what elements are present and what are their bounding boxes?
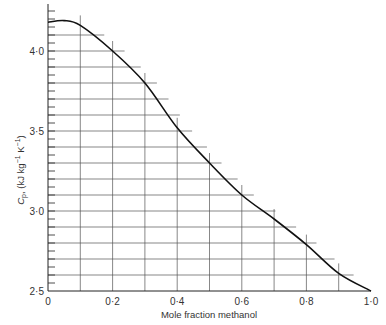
y-tick-label: 3·5 <box>30 126 45 137</box>
x-tick-label: 0·8 <box>299 296 314 307</box>
y-axis-title: Cp, (kJ kg−1 K−1) <box>14 135 28 205</box>
x-axis-title: Mole fraction methanol <box>161 309 257 320</box>
y-tick-label: 2·5 <box>30 286 45 297</box>
x-tick-label: 0·4 <box>170 296 185 307</box>
y-tick-labels: 2·53·03·54·0 <box>30 46 45 297</box>
x-tick-label: 0·2 <box>105 296 120 307</box>
x-tick-label: 1·0 <box>364 296 379 307</box>
y-tick-label: 3·0 <box>30 206 45 217</box>
x-tick-labels: 00·20·40·60·81·0 <box>45 296 378 307</box>
x-tick-label: 0 <box>45 296 51 307</box>
y-tick-label: 4·0 <box>30 46 45 57</box>
x-tick-label: 0·6 <box>235 296 250 307</box>
chart: 00·20·40·60·81·0 2·53·03·54·0 Mole fract… <box>0 0 386 325</box>
